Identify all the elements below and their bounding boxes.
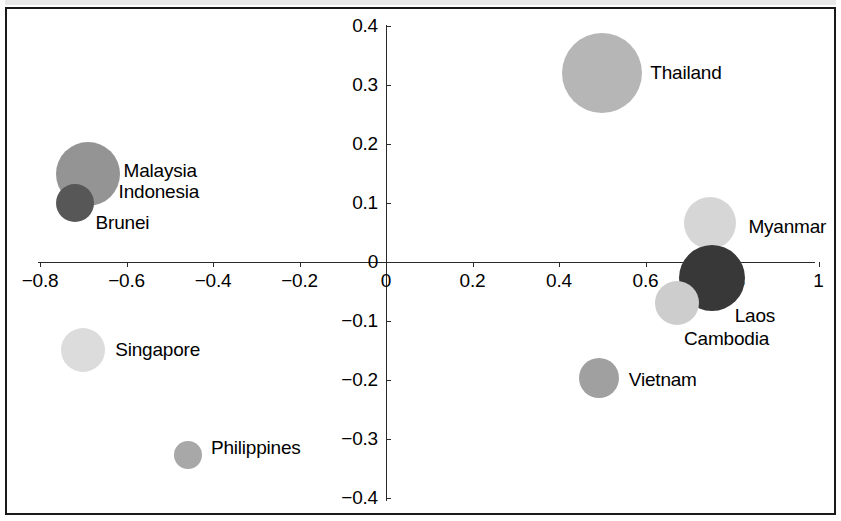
x-axis-tick-mark: [646, 262, 647, 267]
bubble-label-myanmar: Myanmar: [748, 216, 826, 238]
x-axis-tick-mark: [473, 262, 474, 267]
x-axis-tick-label: 0.4: [546, 270, 572, 292]
bubble-myanmar[interactable]: [684, 197, 736, 249]
y-axis-tick-label: 0: [0, 251, 378, 273]
bubble-brunei[interactable]: [56, 184, 94, 222]
y-axis-tick-label: 0.4: [0, 15, 378, 37]
bubble-label-brunei: Brunei: [96, 212, 150, 234]
y-axis-tick-mark: [386, 321, 391, 322]
y-axis-tick-mark: [386, 144, 391, 145]
y-axis-tick-mark: [386, 85, 391, 86]
x-axis-tick-label: −0.6: [108, 270, 145, 292]
y-axis-tick-label: −0.2: [0, 369, 378, 391]
y-axis-tick-mark: [386, 380, 391, 381]
x-axis-tick-mark: [819, 262, 820, 267]
bubble-singapore[interactable]: [61, 328, 105, 372]
bubble-label-laos: Laos: [735, 305, 775, 327]
bubble-label-philippines: Philippines: [211, 437, 301, 459]
bubble-thailand[interactable]: [562, 33, 642, 113]
x-axis-tick-label: 0.2: [460, 270, 486, 292]
y-axis-tick-mark: [386, 439, 391, 440]
plot-area: −0.8−0.6−0.4−0.200.20.40.60.810.40.30.20…: [0, 0, 841, 521]
y-axis-tick-label: −0.4: [0, 487, 378, 509]
x-axis-tick-label: −0.8: [22, 270, 59, 292]
bubble-label-singapore: Singapore: [115, 339, 200, 361]
x-axis-tick-label: 0: [381, 270, 391, 292]
bubble-cambodia[interactable]: [655, 281, 699, 325]
x-axis-tick-label: 0.6: [633, 270, 659, 292]
bubble-label-malaysia: Malaysia: [124, 160, 197, 182]
x-axis-tick-label: −0.4: [195, 270, 232, 292]
bubble-philippines[interactable]: [174, 441, 202, 469]
y-axis-tick-mark: [386, 203, 391, 204]
y-axis-line: [386, 25, 387, 501]
bubble-label-thailand: Thailand: [650, 62, 721, 84]
y-axis-tick-mark: [386, 262, 391, 263]
bubble-label-indonesia: Indonesia: [119, 181, 200, 203]
bubble-chart-figure: −0.8−0.6−0.4−0.200.20.40.60.810.40.30.20…: [0, 0, 841, 521]
y-axis-tick-mark: [386, 498, 391, 499]
bubble-label-vietnam: Vietnam: [629, 369, 697, 391]
bubble-label-cambodia: Cambodia: [684, 328, 769, 350]
y-axis-tick-mark: [386, 26, 391, 27]
x-axis-tick-label: −0.2: [281, 270, 318, 292]
y-axis-tick-label: 0.3: [0, 74, 378, 96]
y-axis-tick-label: −0.1: [0, 310, 378, 332]
x-axis-tick-label: 1: [813, 270, 823, 292]
bubble-vietnam[interactable]: [579, 358, 619, 398]
x-axis-tick-mark: [559, 262, 560, 267]
y-axis-tick-label: 0.2: [0, 133, 378, 155]
